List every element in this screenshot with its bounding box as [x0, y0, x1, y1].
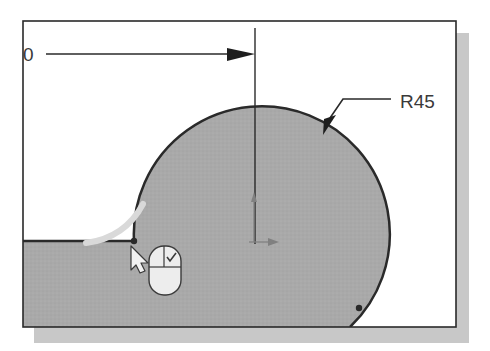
endpoint-marker — [131, 238, 137, 244]
mouse-left-click-icon — [149, 246, 181, 295]
radius-value[interactable]: R45 — [400, 91, 435, 112]
endpoint-marker — [356, 305, 362, 311]
sketch-canvas: 0 R45 — [0, 0, 490, 351]
dimension-value[interactable]: 0 — [23, 44, 34, 65]
